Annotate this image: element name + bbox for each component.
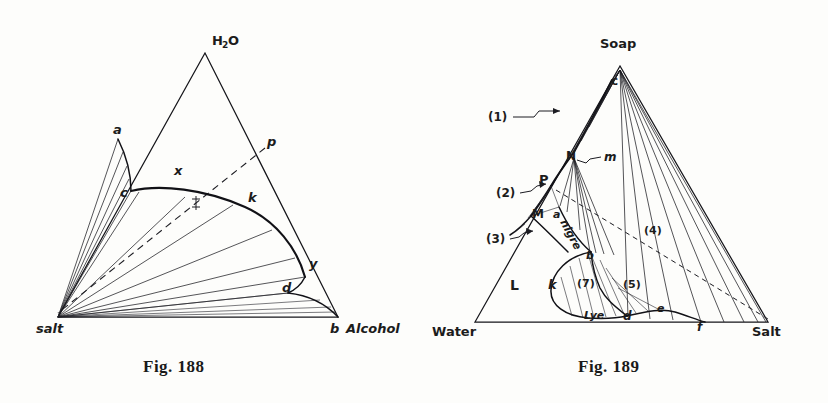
- point-label-n-189: N: [566, 149, 576, 163]
- vertex-label-salt-189: Salt: [752, 324, 781, 339]
- vertex-label-salt-188: salt: [36, 321, 64, 336]
- region-label-4-189: (4): [644, 224, 662, 237]
- point-label-a-189: a: [553, 208, 560, 221]
- point-label-b-189: b: [586, 249, 594, 262]
- figure-sheet: H 2 O salt b Alcohol a c x k p y d: [0, 0, 828, 403]
- tielines-soap-right-189: [620, 70, 766, 322]
- region-label-3-189: (3): [486, 232, 505, 246]
- point-label-nigre-189: nigre: [557, 217, 584, 252]
- point-label-p-189: P: [539, 172, 549, 187]
- point-label-a-188: a: [113, 122, 122, 137]
- point-label-k-189: k: [548, 277, 558, 292]
- vertex-label-h2o-o-188: O: [228, 33, 239, 48]
- point-label-k-188: k: [248, 190, 258, 205]
- region-label-2-189: (2): [496, 186, 515, 200]
- point-label-x-188: x: [173, 163, 183, 178]
- vertex-label-alcohol-188: Alcohol: [345, 321, 400, 336]
- fig-188-group: H 2 O salt b Alcohol a c x k p y d: [36, 33, 400, 336]
- caption-fig-188: Fig. 188: [143, 357, 205, 377]
- binodal-curve-188: [131, 188, 305, 277]
- point-label-lye-189: Lye: [584, 309, 605, 322]
- region-label-1-189: (1): [488, 110, 507, 124]
- point-label-d-188: d: [282, 280, 292, 295]
- point-label-c-189: c: [611, 74, 618, 88]
- lye-loop-base-189: [591, 252, 627, 316]
- point-label-y-188: y: [309, 256, 318, 271]
- base-curve-def-189: [627, 310, 705, 322]
- tielines-lower-188: [58, 293, 336, 317]
- tielines-salt-to-ac-188: [58, 139, 131, 317]
- point-label-mcap-189: M: [532, 207, 544, 221]
- point-label-c-188: c: [120, 185, 128, 200]
- point-label-d-189: d: [623, 309, 632, 323]
- vertex-label-b-188: b: [330, 321, 339, 336]
- vertex-label-water-189: Water: [432, 324, 477, 339]
- region-label-5-189: (5): [623, 278, 641, 291]
- fig-189-group: Soap Water Salt c N m P M a b k L Lye d …: [432, 36, 781, 339]
- figures-svg: H 2 O salt b Alcohol a c x k p y d: [0, 0, 828, 403]
- branch-a-c-188: [118, 139, 131, 191]
- f-marker-188: [192, 196, 200, 210]
- region-label-7-189: (7): [577, 277, 595, 290]
- point-label-m-189: m: [604, 150, 617, 164]
- point-label-p-188: p: [266, 134, 276, 149]
- vertex-label-soap-189: Soap: [600, 36, 636, 51]
- point-label-l-189: L: [510, 277, 519, 293]
- triangle-189: [475, 66, 768, 322]
- point-label-e-189: e: [657, 302, 665, 315]
- tielines-salt-to-binodal-188: [58, 192, 305, 317]
- caption-fig-189: Fig. 189: [578, 357, 640, 377]
- b-side-curve-188: [288, 293, 338, 317]
